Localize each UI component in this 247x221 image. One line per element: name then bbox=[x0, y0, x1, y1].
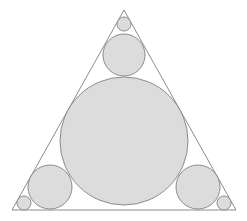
circle-bottom-left-medium bbox=[28, 165, 72, 209]
circle-top-small bbox=[117, 17, 131, 31]
inscribed-circles bbox=[17, 17, 231, 210]
circle-bottom-left-small bbox=[17, 196, 31, 210]
circle-center-large bbox=[60, 77, 188, 205]
circle-bottom-right-small bbox=[217, 196, 231, 210]
circle-top-medium bbox=[103, 34, 145, 76]
triangle-circles-diagram bbox=[0, 0, 247, 221]
circle-bottom-right-medium bbox=[176, 165, 220, 209]
